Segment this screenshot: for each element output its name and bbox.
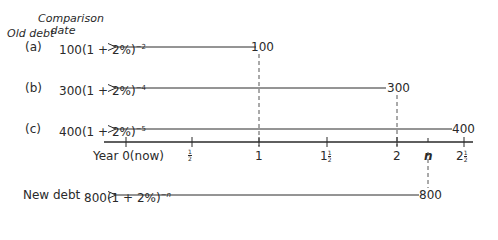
new-debt-expr-base: 800(1 + 2%) (84, 191, 161, 205)
row-expr-a: 100(1 + 2%)−2 (59, 40, 146, 57)
amount-b: 300 (387, 81, 410, 95)
row-label-c: (c) (25, 122, 41, 136)
expr-base-a: 100(1 + 2%) (59, 43, 136, 57)
old-debt-label: Old debt (7, 27, 54, 41)
tick-label-2: 2 (393, 149, 401, 163)
tick-label-1: 1 (255, 149, 263, 163)
tick-label-2-half: 212 (456, 149, 467, 163)
exponent-a: −2 (136, 43, 146, 51)
tick-label-n: n (424, 149, 433, 163)
half-den: 2 (188, 156, 192, 162)
tick-label-year0: Year 0(now) (93, 149, 164, 163)
new-debt-expr: 800(1 + 2%)−n (84, 188, 171, 205)
row-label-b: (b) (25, 81, 42, 95)
row-expr-b: 300(1 + 2%)−4 (59, 81, 146, 98)
tick-label-half: 12 (188, 148, 192, 162)
tick-label-1-half: 112 (320, 149, 331, 163)
expr-base-c: 400(1 + 2%) (59, 125, 136, 139)
new-debt-label: New debt (23, 188, 80, 202)
expr-base-b: 300(1 + 2%) (59, 84, 136, 98)
exponent-c: −5 (136, 125, 146, 133)
exponent-b: −4 (136, 84, 146, 92)
row-expr-c: 400(1 + 2%)−5 (59, 122, 146, 139)
comparison-label-line2: date (51, 24, 76, 37)
amount-c: 400 (452, 122, 475, 136)
amount-a: 100 (251, 40, 274, 54)
row-label-a: (a) (25, 40, 42, 54)
new-debt-amount: 800 (419, 188, 442, 202)
new-debt-exponent: −n (161, 191, 171, 199)
